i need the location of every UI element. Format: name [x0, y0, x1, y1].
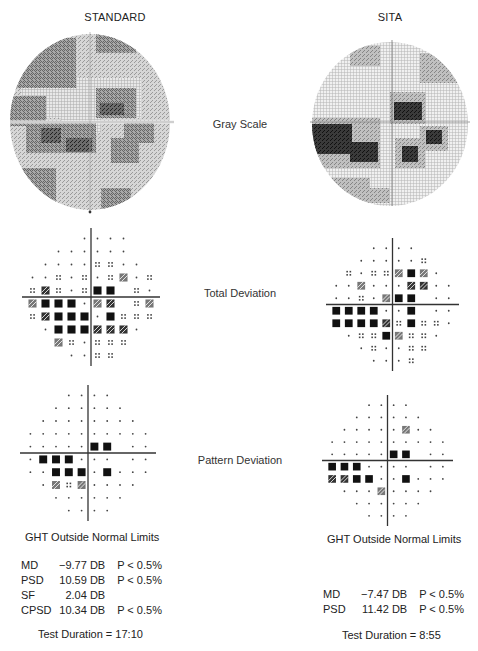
deviation-symbol: [132, 433, 134, 435]
deviation-symbol: [123, 251, 125, 253]
deviation-symbol: [348, 285, 350, 287]
deviation-symbol: [417, 429, 419, 431]
deviation-symbol: [81, 420, 83, 422]
deviation-symbol: [368, 466, 370, 468]
deviation-symbol: [81, 395, 83, 397]
deviation-symbol: [30, 288, 35, 293]
deviation-symbol: [121, 340, 126, 345]
deviation-symbol: [393, 404, 395, 406]
deviation-symbol: [371, 333, 376, 338]
deviation-symbol: [136, 329, 138, 331]
deviation-symbol: [345, 319, 353, 327]
deviation-symbol: [331, 441, 333, 443]
deviation-symbol: [348, 297, 350, 299]
deviation-symbol: [149, 290, 151, 292]
deviation-symbol: [84, 355, 86, 357]
deviation-symbol: [97, 238, 99, 240]
deviation-symbol: [52, 455, 60, 463]
deviation-symbol: [30, 459, 32, 461]
deviation-symbol: [67, 312, 75, 320]
deviation-symbol: [332, 319, 340, 327]
deviation-symbol: [430, 453, 432, 455]
deviation-symbol: [84, 238, 86, 240]
deviation-symbol: [430, 466, 432, 468]
deviation-symbol: [106, 484, 108, 486]
deviation-symbol: [42, 446, 44, 448]
deviation-symbol: [42, 484, 44, 486]
deviation-symbol: [402, 475, 410, 483]
deviation-symbol: [442, 453, 444, 455]
deviation-symbol: [405, 466, 407, 468]
deviation-symbol: [108, 353, 113, 358]
deviation-symbol: [417, 417, 419, 419]
deviation-symbol: [370, 307, 378, 315]
deviation-symbol: [380, 417, 382, 419]
deviation-symbol: [80, 325, 88, 333]
deviation-symbol: [385, 285, 387, 287]
deviation-symbol: [119, 484, 121, 486]
deviation-symbol: [410, 260, 412, 262]
deviation-symbol: [356, 490, 358, 492]
deviation-symbol: [39, 455, 47, 463]
deviation-symbol: [94, 433, 96, 435]
deviation-symbol: [106, 312, 114, 320]
deviation-symbol: [147, 275, 152, 280]
deviation-symbol: [442, 441, 444, 443]
deviation-symbol: [356, 429, 358, 431]
deviation-symbol: [385, 360, 387, 362]
deviation-symbol: [108, 275, 113, 280]
deviation-symbol: [360, 260, 362, 262]
deviation-symbol: [417, 490, 419, 492]
deviation-symbol: [69, 340, 74, 345]
deviation-symbol: [123, 264, 125, 266]
deviation-symbol: [80, 312, 88, 320]
stat-row-psd: PSD11.42 DBP < 0.5%: [323, 602, 464, 617]
deviation-symbol: [393, 429, 395, 431]
deviation-symbol: [365, 475, 373, 483]
deviation-symbol: [380, 453, 382, 455]
deviation-symbol: [71, 290, 73, 292]
gray-scale-map-standard: [6, 28, 178, 216]
deviation-symbol: [97, 277, 99, 279]
deviation-symbol: [380, 441, 382, 443]
deviation-symbol: [371, 346, 376, 351]
deviation-symbol: [344, 441, 346, 443]
deviation-symbol: [94, 420, 96, 422]
deviation-symbol: [405, 404, 407, 406]
deviation-symbol: [356, 453, 358, 455]
deviation-symbol: [106, 407, 108, 409]
deviation-symbol: [110, 238, 112, 240]
deviation-symbol: [97, 316, 99, 318]
deviation-symbol: [373, 285, 375, 287]
deviation-symbol: [136, 264, 138, 266]
deviation-symbol: [68, 420, 70, 422]
pattern-deviation-plot-standard: [20, 385, 156, 521]
deviation-symbol: [55, 433, 57, 435]
deviation-symbol: [373, 247, 375, 249]
deviation-symbol: [119, 420, 121, 422]
deviation-symbol: [448, 322, 450, 324]
deviation-symbol: [119, 273, 127, 281]
deviation-symbol: [357, 282, 365, 290]
deviation-symbol: [370, 319, 378, 327]
deviation-symbol: [134, 288, 139, 293]
deviation-symbol: [382, 332, 390, 340]
deviation-symbol: [409, 358, 414, 363]
global-indices-standard: MD−9.77 DBP < 0.5% PSD10.59 DBP < 0.5% S…: [21, 558, 162, 618]
deviation-symbol: [145, 471, 147, 473]
deviation-symbol: [58, 251, 60, 253]
deviation-symbol: [84, 251, 86, 253]
deviation-symbol: [106, 420, 108, 422]
deviation-symbol: [55, 446, 57, 448]
stat-row-cpsd: CPSD10.34 DBP < 0.5%: [21, 603, 162, 618]
deviation-symbol: [442, 478, 444, 480]
deviation-symbol: [41, 312, 49, 320]
deviation-symbol: [81, 446, 83, 448]
pattern-deviation-plot-sita: [322, 395, 453, 526]
deviation-symbol: [435, 272, 437, 274]
deviation-symbol: [430, 429, 432, 431]
deviation-symbol: [341, 463, 349, 471]
deviation-symbol: [82, 288, 87, 293]
deviation-symbol: [94, 484, 96, 486]
deviation-symbol: [405, 417, 407, 419]
